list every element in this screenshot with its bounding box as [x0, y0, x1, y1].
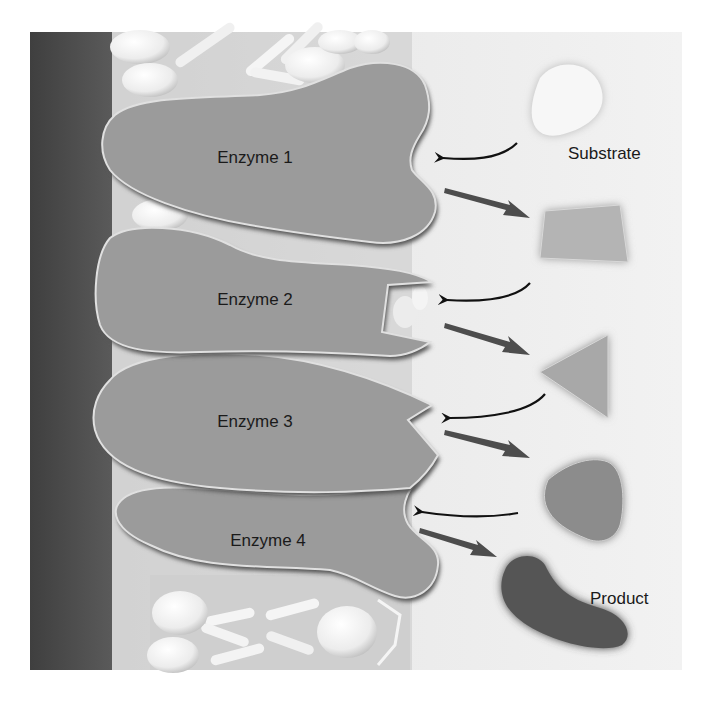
lipid-bilayer-bottom: [147, 575, 410, 673]
enzyme-1-label: Enzyme 1: [217, 148, 293, 167]
enzyme-3-label: Enzyme 3: [217, 412, 293, 431]
enzyme-4-label: Enzyme 4: [230, 531, 306, 550]
membrane-dark-region: [30, 32, 112, 670]
enzyme-2-label: Enzyme 2: [217, 290, 293, 309]
intermediate-trapezoid: [540, 205, 628, 262]
enzyme-pathway-diagram: Enzyme 4 Enzyme 3 Enzyme 2 Enzyme 1 Subs…: [0, 0, 712, 701]
substrate-label: Substrate: [568, 144, 641, 163]
product-label: Product: [590, 589, 649, 608]
